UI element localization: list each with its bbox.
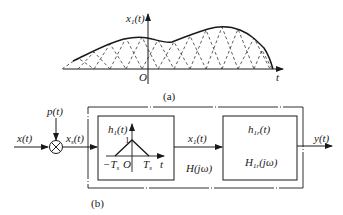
carrier-label: p(t): [46, 105, 63, 118]
caption-b: (b): [91, 197, 104, 210]
envelope-curve: [73, 27, 273, 70]
block-origin-label: O: [123, 158, 131, 170]
intermediate-label: x1(t): [187, 132, 207, 146]
triangle-filter-block: h1(t) 1 −Ts O Ts t: [98, 116, 174, 180]
origin-label: O: [139, 71, 147, 83]
multiplier-icon: [50, 141, 63, 154]
H1r-label: H1r(jω): [244, 156, 278, 170]
triangular-pulses: [62, 27, 272, 69]
signal-reconstruction-figure: x1(t) O t (a) x(t) p(t) xs(t): [0, 0, 343, 215]
t-axis-label: t: [276, 71, 280, 83]
sampled-label: xs(t): [65, 132, 84, 146]
input-label: x(t): [16, 132, 33, 145]
peak-label: 1: [125, 135, 130, 145]
output-label: y(t): [313, 132, 330, 145]
y-axis-label: x1(t): [125, 12, 145, 26]
figure-a: x1(t) O t (a): [62, 12, 283, 103]
figure-b: x(t) p(t) xs(t) h1(t) 1 −: [14, 105, 332, 210]
caption-a: (a): [163, 90, 176, 103]
h1r-label: h1r(t): [248, 123, 270, 137]
system-label: H(jω): [185, 162, 212, 175]
reconstruction-filter-block: h1r(t) H1r(jω): [223, 116, 297, 180]
